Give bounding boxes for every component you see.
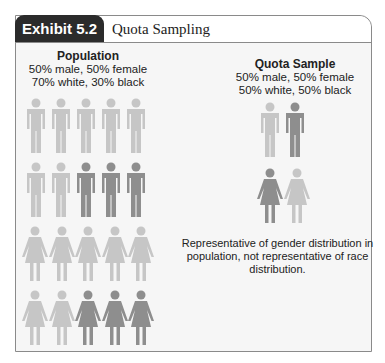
population-race-line: 70% white, 30% black	[18, 76, 158, 89]
exhibit-tag: Exhibit 5.2	[15, 15, 104, 42]
female-white-figure-icon	[48, 226, 76, 286]
exhibit-header: Exhibit 5.2 Quota Sampling	[16, 16, 371, 43]
male-white-figure-icon	[124, 98, 148, 158]
female-black-figure-icon	[127, 290, 155, 350]
sample-note: Representative of gender distribution in…	[180, 237, 375, 276]
female-white-figure-icon	[101, 226, 129, 286]
quota-heading: Quota Sample	[225, 58, 365, 71]
male-black-figure-icon	[124, 162, 148, 222]
female-white-figure-icon	[21, 290, 49, 350]
quota-male-black-figure-icon	[283, 102, 307, 162]
quota-female-white-figure-icon	[283, 168, 311, 228]
male-black-figure-icon	[74, 162, 98, 222]
population-heading: Population	[18, 50, 158, 63]
female-white-figure-icon	[74, 226, 102, 286]
female-white-figure-icon	[127, 226, 155, 286]
exhibit-title: Quota Sampling	[112, 16, 210, 42]
male-white-figure-icon	[49, 98, 73, 158]
female-black-figure-icon	[101, 290, 129, 350]
quota-gender-line: 50% male, 50% female	[225, 71, 365, 84]
female-white-figure-icon	[21, 226, 49, 286]
quota-male-white-figure-icon	[258, 102, 282, 162]
population-gender-line: 50% male, 50% female	[18, 63, 158, 76]
male-black-figure-icon	[99, 162, 123, 222]
male-white-figure-icon	[24, 98, 48, 158]
female-white-figure-icon	[48, 290, 76, 350]
male-white-figure-icon	[99, 98, 123, 158]
quota-race-line: 50% white, 50% black	[225, 84, 365, 97]
male-white-figure-icon	[24, 162, 48, 222]
male-white-figure-icon	[74, 98, 98, 158]
quota-female-black-figure-icon	[256, 168, 284, 228]
quota-caption: Quota Sample 50% male, 50% female 50% wh…	[225, 58, 365, 97]
male-white-figure-icon	[49, 162, 73, 222]
female-black-figure-icon	[74, 290, 102, 350]
population-caption: Population 50% male, 50% female 70% whit…	[18, 50, 158, 89]
